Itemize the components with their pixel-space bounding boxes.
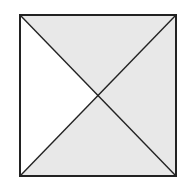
diagram-canvas	[0, 0, 178, 178]
square-diagonals-diagram	[0, 0, 178, 178]
